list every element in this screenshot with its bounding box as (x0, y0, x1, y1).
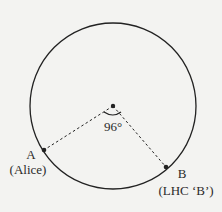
point-a (42, 148, 47, 153)
angle-label: 96° (104, 119, 122, 134)
point-a-sublabel: (Alice) (10, 162, 47, 177)
radius-line-a (44, 106, 113, 150)
angle-arc (104, 112, 121, 115)
circle-diagram: 96° A (Alice) B (LHC ‘B’) (0, 0, 222, 212)
point-b (164, 165, 169, 170)
point-b-label: B (178, 166, 187, 181)
center-point (111, 104, 115, 108)
point-b-sublabel: (LHC ‘B’) (158, 183, 213, 198)
radius-line-b (113, 106, 166, 167)
point-a-label: A (26, 147, 36, 162)
